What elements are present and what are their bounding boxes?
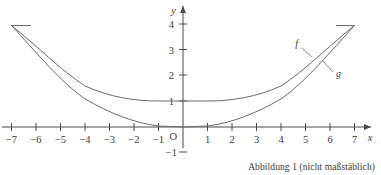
curve-g-annotation: g bbox=[322, 60, 341, 79]
figure-caption: Abbildung 1 (nicht maßstäblich) bbox=[248, 162, 375, 172]
y-tick-label: 2 bbox=[169, 70, 174, 81]
x-tick-label: 4 bbox=[278, 134, 284, 145]
y-tick-label: 4 bbox=[169, 19, 175, 30]
x-tick-label: 1 bbox=[205, 134, 210, 145]
x-axis-label: x bbox=[367, 132, 373, 143]
x-tick-label: 2 bbox=[229, 134, 234, 145]
y-axis-arrow bbox=[180, 6, 186, 13]
x-tick-label: −3 bbox=[104, 134, 115, 145]
x-tick-label: −7 bbox=[6, 134, 17, 145]
x-tick-label: 6 bbox=[327, 134, 332, 145]
curve-g-label: g bbox=[336, 68, 341, 79]
curve-f-label: f bbox=[295, 38, 299, 49]
x-tick-label: −2 bbox=[128, 134, 139, 145]
y-tick-label: −1 bbox=[166, 147, 177, 158]
x-tick-label: 5 bbox=[303, 134, 308, 145]
coordinate-plot: −7 −6 −5 −4 −3 −2 −1 1 2 3 4 5 6 7 4 3 2… bbox=[0, 0, 381, 175]
x-tick-labels: −7 −6 −5 −4 −3 −2 −1 1 2 3 4 5 6 7 bbox=[6, 134, 357, 145]
x-tick-label: −6 bbox=[30, 134, 41, 145]
x-axis-arrow bbox=[364, 124, 371, 130]
x-tick-label: −5 bbox=[55, 134, 66, 145]
x-tick-label: −4 bbox=[79, 134, 91, 145]
y-tick-label: 3 bbox=[169, 45, 174, 56]
y-axis-label: y bbox=[170, 5, 176, 16]
origin-label: O bbox=[169, 131, 177, 142]
x-tick-label: 7 bbox=[352, 134, 357, 145]
x-tick-label: 3 bbox=[254, 134, 259, 145]
x-tick-label: −1 bbox=[153, 134, 164, 145]
figure-container: −7 −6 −5 −4 −3 −2 −1 1 2 3 4 5 6 7 4 3 2… bbox=[0, 0, 381, 175]
curve-f-annotation: f bbox=[295, 38, 312, 57]
